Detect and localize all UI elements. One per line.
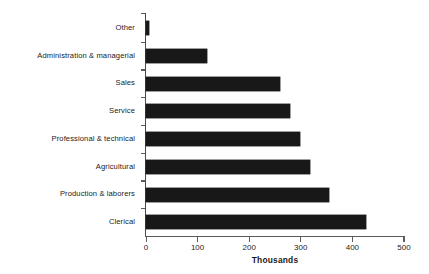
bar-row (146, 153, 404, 181)
bar-row (146, 97, 404, 125)
bar-row (146, 14, 404, 42)
category-label-production: Production & laborers (60, 181, 135, 209)
bar-row (146, 181, 404, 209)
bar-row (146, 208, 404, 236)
category-label-service: Service (109, 97, 135, 125)
bar-service (146, 104, 290, 118)
value-tick-label-300: 300 (294, 243, 307, 253)
bar-row (146, 70, 404, 98)
category-label-sales: Sales (116, 70, 136, 98)
bar-sales (146, 77, 280, 91)
value-tick (403, 237, 404, 242)
value-tick (300, 237, 301, 242)
value-tick (197, 237, 198, 242)
bar-production (146, 188, 329, 202)
value-axis-line (145, 236, 405, 237)
bar-chart: Other Administration & managerial Sales … (0, 0, 429, 274)
bar-administration (146, 49, 207, 63)
plot-area (146, 14, 404, 236)
value-tick (146, 237, 147, 242)
category-axis-labels: Other Administration & managerial Sales … (0, 14, 141, 236)
category-label-administration: Administration & managerial (37, 42, 135, 70)
category-label-agricultural: Agricultural (96, 153, 135, 181)
category-label-other: Other (116, 14, 136, 42)
bar-professional (146, 132, 300, 146)
value-axis-title: Thousands (146, 255, 404, 265)
value-tick-label-200: 200 (243, 243, 256, 253)
value-tick-label-100: 100 (191, 243, 204, 253)
bar-other (146, 21, 149, 35)
bar-row (146, 125, 404, 153)
bar-clerical (146, 215, 366, 229)
value-tick (352, 237, 353, 242)
value-tick-label-500: 500 (397, 243, 410, 253)
bar-agricultural (146, 160, 310, 174)
category-label-professional: Professional & technical (52, 125, 135, 153)
category-label-clerical: Clerical (109, 208, 135, 236)
value-tick-label-400: 400 (346, 243, 359, 253)
value-tick-label-0: 0 (144, 243, 148, 253)
bar-row (146, 42, 404, 70)
value-tick (249, 237, 250, 242)
